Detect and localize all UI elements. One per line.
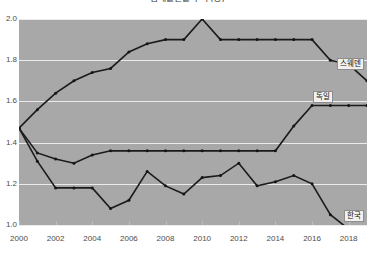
data-point <box>311 182 314 185</box>
data-point <box>164 38 167 41</box>
series-label-germany: 독일 <box>313 91 333 103</box>
data-point <box>256 38 259 41</box>
data-point <box>109 207 112 210</box>
data-point <box>146 42 149 45</box>
data-point <box>109 67 112 70</box>
data-point <box>237 162 240 165</box>
data-point <box>274 149 277 152</box>
data-point <box>127 149 130 152</box>
x-axis-tick-label: 2004 <box>77 234 107 243</box>
data-point <box>274 180 277 183</box>
data-point <box>256 184 259 187</box>
y-axis-tick-label: 1.6 <box>0 97 17 105</box>
chart-container: 합계출산율 추이 (명) 1.01.21.41.61.82.0 20002002… <box>0 0 374 253</box>
data-point <box>219 149 222 152</box>
data-point <box>201 176 204 179</box>
data-point <box>91 71 94 74</box>
data-point <box>329 104 332 107</box>
data-point <box>54 92 57 95</box>
data-point <box>182 38 185 41</box>
series-line-독일 <box>19 106 367 164</box>
data-point <box>164 184 167 187</box>
data-point <box>274 38 277 41</box>
x-axis-tick-label: 2018 <box>334 234 364 243</box>
x-axis-tick-label: 2014 <box>260 234 290 243</box>
data-point <box>237 38 240 41</box>
data-point <box>54 158 57 161</box>
data-point <box>311 104 314 107</box>
data-point <box>311 38 314 41</box>
data-point <box>219 174 222 177</box>
data-point <box>292 38 295 41</box>
gridline <box>19 225 367 226</box>
x-axis-tick-label: 2006 <box>114 234 144 243</box>
data-point <box>256 149 259 152</box>
data-point <box>54 186 57 189</box>
y-axis-tick-label: 1.4 <box>0 139 17 147</box>
data-point <box>109 149 112 152</box>
data-point <box>329 213 332 216</box>
data-point <box>347 104 350 107</box>
data-point <box>91 186 94 189</box>
x-axis-tick-label: 2012 <box>224 234 254 243</box>
data-point <box>182 193 185 196</box>
series-label-korea: 한국 <box>344 210 364 222</box>
x-axis-tick-label: 2016 <box>297 234 327 243</box>
data-point <box>36 151 39 154</box>
x-axis-tick-label: 2008 <box>151 234 181 243</box>
data-point <box>36 160 39 163</box>
y-axis-tick-label: 1.8 <box>0 56 17 64</box>
data-point <box>292 174 295 177</box>
data-point <box>219 38 222 41</box>
data-point <box>72 162 75 165</box>
plot-area <box>19 19 367 225</box>
data-point <box>292 125 295 128</box>
data-point <box>366 104 368 107</box>
series-line-한국 <box>19 128 367 225</box>
series-label-sweden: 스웨덴 <box>337 58 364 70</box>
data-point <box>164 149 167 152</box>
data-point <box>127 199 130 202</box>
data-point <box>72 186 75 189</box>
x-axis-tick-label: 2002 <box>41 234 71 243</box>
series-line-스웨덴 <box>19 19 367 128</box>
data-point <box>36 108 39 111</box>
data-point <box>91 153 94 156</box>
y-axis-tick-label: 1.0 <box>0 221 17 229</box>
chart-title: 합계출산율 추이 (명) <box>0 0 374 2</box>
data-point <box>201 149 204 152</box>
data-point <box>127 50 130 53</box>
data-point <box>72 79 75 82</box>
data-point <box>146 170 149 173</box>
x-axis-tick-label: 2000 <box>4 234 34 243</box>
data-point <box>146 149 149 152</box>
y-axis-tick-label: 2.0 <box>0 15 17 23</box>
data-point <box>182 149 185 152</box>
series-plot <box>19 19 367 225</box>
y-axis-tick-label: 1.2 <box>0 180 17 188</box>
x-axis-tick-label: 2010 <box>187 234 217 243</box>
data-point <box>329 59 332 62</box>
data-point <box>237 149 240 152</box>
